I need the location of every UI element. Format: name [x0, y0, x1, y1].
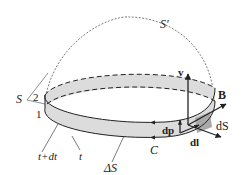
label-curve-c: C [150, 143, 159, 157]
label-t: t [79, 150, 83, 162]
label-delta-s: ΔS [103, 161, 117, 175]
ribbon-band-back [45, 74, 215, 108]
label-dp: dp [162, 124, 174, 136]
label-side-1: 1 [36, 108, 42, 120]
leader-t [72, 136, 80, 150]
label-velocity-v: v [178, 66, 184, 78]
label-s-prime: S′ [160, 17, 169, 31]
label-dl: dl [190, 136, 199, 148]
label-t-plus-dt: t+dt [38, 150, 58, 162]
leader-delta-s [112, 136, 124, 162]
flux-surface-diagram: S′ S 2 1 t+dt t ΔS C v B dS dl dp [0, 0, 241, 175]
leader-t-plus-dt [42, 124, 58, 152]
label-side-2: 2 [33, 91, 39, 103]
label-dS: dS [216, 119, 229, 133]
label-field-B: B [218, 88, 226, 102]
label-s: S [16, 92, 22, 106]
